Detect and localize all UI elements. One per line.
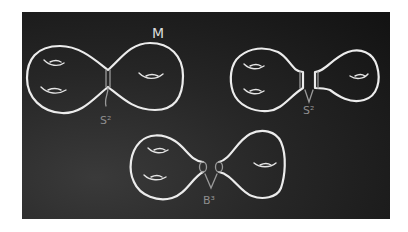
surface-capped [131, 131, 285, 199]
label-sphere-2: S² [303, 104, 314, 117]
label-sphere-1: S² [100, 114, 111, 127]
surface-m [27, 43, 183, 113]
label-ball: B³ [203, 194, 215, 207]
surface-cut [231, 49, 379, 112]
hole-icon [139, 73, 163, 78]
diagram-canvas: M S² S² B³ [0, 0, 408, 232]
label-m: M [152, 25, 164, 41]
